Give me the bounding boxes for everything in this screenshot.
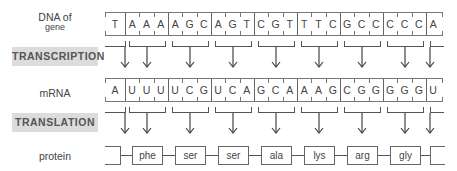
mrna-base: C — [182, 79, 196, 101]
down-arrow-icon — [357, 47, 367, 68]
tick-mark — [105, 13, 106, 17]
down-arrow-icon — [357, 113, 367, 134]
tick-mark — [369, 13, 370, 17]
peptide-bond — [249, 155, 261, 156]
tick-mark — [182, 79, 183, 83]
tick-mark — [139, 97, 140, 101]
dna-base: T — [311, 13, 325, 35]
dna-base: T — [240, 13, 254, 35]
down-arrow-icon — [185, 47, 195, 68]
peptide-bond — [378, 155, 390, 156]
dna-base: C — [383, 13, 397, 35]
tick-mark — [240, 13, 241, 17]
tick-mark — [369, 97, 370, 101]
dna-base: A — [211, 13, 225, 35]
tick-mark — [105, 97, 106, 101]
codon-divider — [297, 13, 298, 35]
tick-mark — [105, 79, 106, 83]
mrna-base: U — [154, 79, 168, 101]
tick-mark — [442, 13, 443, 17]
codon-divider — [168, 79, 169, 101]
mrna-base: A — [283, 79, 297, 101]
tick-mark — [311, 13, 312, 17]
tick-mark — [369, 79, 370, 83]
dna-base: C — [369, 13, 383, 35]
tick-mark — [442, 31, 443, 35]
down-arrow-icon — [400, 47, 410, 68]
mrna-base: U — [139, 79, 153, 101]
down-arrow-icon — [120, 47, 130, 68]
codon-divider — [297, 79, 298, 101]
tick-mark — [283, 13, 284, 17]
tick-mark — [442, 79, 443, 83]
tick-mark — [369, 31, 370, 35]
mrna-base: G — [354, 79, 368, 101]
dna-label-sub: gene — [20, 22, 90, 32]
tick-mark — [311, 79, 312, 83]
tick-mark — [240, 31, 241, 35]
tick-mark — [240, 79, 241, 83]
dna-base: A — [139, 13, 153, 35]
mrna-base: U — [211, 79, 225, 101]
tick-mark — [139, 13, 140, 17]
amino-acid-arg: arg — [347, 146, 378, 165]
down-arrow-icon — [425, 47, 435, 68]
dna-base: C — [354, 13, 368, 35]
dna-strand: TAAAAGCAGTCGTTTCGCCCCCA — [105, 12, 443, 36]
codon-divider — [383, 79, 384, 101]
codon-divider — [125, 13, 126, 35]
dna-label: DNA of gene — [20, 12, 90, 32]
tick-mark — [154, 79, 155, 83]
tick-mark — [283, 97, 284, 101]
tick-mark — [354, 31, 355, 35]
codon-divider — [426, 79, 427, 101]
peptide-bond — [121, 155, 132, 156]
tick-mark — [412, 31, 413, 35]
tick-mark — [139, 31, 140, 35]
dna-base: C — [326, 13, 340, 35]
tick-mark — [240, 97, 241, 101]
down-arrow-icon — [142, 47, 152, 68]
dna-base: G — [182, 13, 196, 35]
codon-divider — [340, 13, 341, 35]
tick-mark — [442, 97, 443, 101]
tick-mark — [182, 97, 183, 101]
dna-base: A — [426, 13, 440, 35]
tick-mark — [182, 13, 183, 17]
tick-mark — [154, 31, 155, 35]
dna-base: T — [297, 13, 311, 35]
peptide-bond — [163, 155, 175, 156]
mrna-base: U — [426, 79, 440, 101]
down-arrow-icon — [271, 113, 281, 134]
tick-mark — [283, 31, 284, 35]
codon-divider — [254, 79, 255, 101]
amino-acid-box-partial — [430, 146, 445, 165]
peptide-bond — [421, 155, 430, 156]
dna-label-main: DNA of — [20, 12, 90, 22]
mrna-base: G — [397, 79, 411, 101]
down-arrow-icon — [120, 113, 130, 134]
tick-mark — [225, 13, 226, 17]
codon-divider — [254, 13, 255, 35]
mrna-base: A — [297, 79, 311, 101]
dna-base: C — [412, 13, 426, 35]
down-arrow-icon — [314, 47, 324, 68]
amino-acid-ser: ser — [218, 146, 249, 165]
tick-mark — [397, 13, 398, 17]
translation-label: TRANSLATION — [12, 113, 98, 132]
tick-mark — [412, 97, 413, 101]
peptide-bond — [335, 155, 347, 156]
peptide-bond — [206, 155, 218, 156]
mrna-base: U — [168, 79, 182, 101]
dna-base: C — [397, 13, 411, 35]
tick-mark — [197, 31, 198, 35]
tick-mark — [326, 79, 327, 83]
codon-divider — [426, 13, 427, 35]
mrna-base: G — [326, 79, 340, 101]
tick-mark — [268, 97, 269, 101]
tick-mark — [326, 31, 327, 35]
down-arrow-icon — [400, 113, 410, 134]
mrna-strand: AUUUUCGUCAGCAAAGCGGGGGU — [105, 78, 443, 102]
tick-mark — [105, 31, 106, 35]
tick-mark — [354, 97, 355, 101]
